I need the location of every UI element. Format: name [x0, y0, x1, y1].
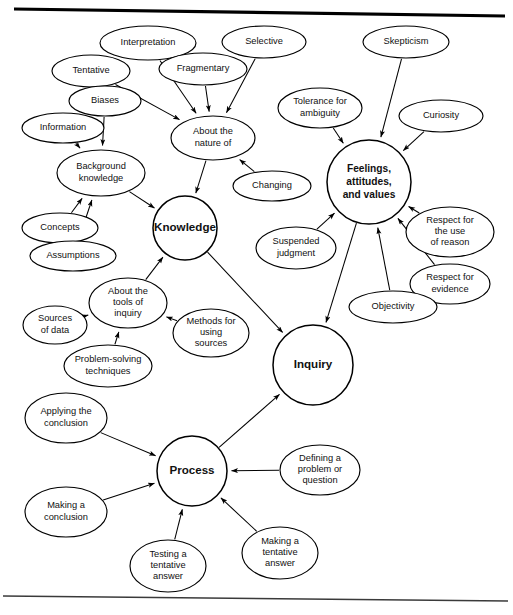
- node-background-knowledge[interactable]: Backgroundknowledge: [57, 150, 145, 196]
- node-applying-conclusion[interactable]: Applying theconclusion: [25, 393, 107, 443]
- node-tentative[interactable]: Tentative: [52, 55, 130, 87]
- edge-objectivity-to-feelings: [378, 228, 390, 290]
- edge-applying-conclusion-to-process: [101, 433, 156, 456]
- edge-fragmentary-to-about-nature-of: [205, 86, 209, 112]
- node-label-skepticism: Skepticism: [384, 36, 429, 46]
- node-label-tentative: Tentative: [72, 65, 109, 75]
- node-label-selective: Selective: [245, 36, 283, 46]
- node-inquiry[interactable]: Inquiry: [273, 325, 353, 405]
- node-process[interactable]: Process: [157, 436, 227, 506]
- edge-testing-tentative-answer-to-process: [175, 509, 183, 539]
- node-label-testing-tentative-answer: Testing atentativeanswer: [149, 549, 187, 581]
- node-label-concepts: Concepts: [40, 222, 80, 232]
- node-label-assumptions: Assumptions: [46, 250, 100, 260]
- node-suspended-judgment[interactable]: Suspendedjudgment: [256, 227, 336, 269]
- node-defining-problem[interactable]: Defining aproblem orquestion: [280, 445, 360, 495]
- node-label-making-conclusion: Making aconclusion: [44, 501, 88, 522]
- nodes-layer: InterpretationSelectiveSkepticismFragmen…: [22, 26, 494, 592]
- node-label-feelings: Feelings,attitudes,and values: [343, 163, 396, 199]
- edge-making-tentative-answer-to-process: [221, 498, 257, 531]
- edge-curiosity-to-feelings: [403, 132, 424, 151]
- node-skepticism[interactable]: Skepticism: [363, 26, 449, 58]
- edge-information-to-background-knowledge: [76, 143, 80, 148]
- node-assumptions[interactable]: Assumptions: [30, 241, 116, 271]
- node-concepts[interactable]: Concepts: [22, 213, 98, 243]
- node-label-making-tentative-answer: Making atentativeanswer: [261, 536, 300, 568]
- node-about-nature-of[interactable]: About thenature of: [171, 116, 255, 160]
- node-label-objectivity: Objectivity: [372, 301, 415, 311]
- edge-tolerance-ambiguity-to-feelings: [333, 128, 343, 143]
- node-tolerance-ambiguity[interactable]: Tolerance forambiguity: [278, 88, 362, 128]
- edge-skepticism-to-feelings: [381, 59, 402, 137]
- edge-suspended-judgment-to-feelings: [317, 213, 335, 229]
- node-label-curiosity: Curiosity: [423, 110, 460, 120]
- edge-sources-of-data-to-about-tools-inquiry: [85, 315, 89, 316]
- node-label-biases: Biases: [91, 95, 119, 105]
- concept-map-canvas: InterpretationSelectiveSkepticismFragmen…: [0, 0, 513, 615]
- node-testing-tentative-answer[interactable]: Testing atentativeanswer: [130, 540, 206, 592]
- edge-about-tools-inquiry-to-knowledge: [146, 257, 163, 280]
- node-curiosity[interactable]: Curiosity: [399, 100, 483, 132]
- node-methods-using-sources[interactable]: Methods forusingsources: [173, 309, 249, 357]
- node-label-knowledge: Knowledge: [154, 220, 216, 233]
- edge-problem-solving-to-about-tools-inquiry: [115, 332, 119, 344]
- node-problem-solving[interactable]: Problem-solvingtechniques: [64, 345, 152, 387]
- node-label-inquiry: Inquiry: [294, 357, 333, 370]
- node-label-suspended-judgment: Suspendedjudgment: [272, 237, 319, 258]
- node-selective[interactable]: Selective: [222, 26, 306, 58]
- node-changing[interactable]: Changing: [233, 171, 311, 201]
- node-information[interactable]: Information: [22, 113, 104, 143]
- concept-map-svg: InterpretationSelectiveSkepticismFragmen…: [0, 0, 513, 615]
- node-respect-reason[interactable]: Respect forthe useof reason: [406, 207, 494, 257]
- edge-background-knowledge-to-knowledge: [129, 192, 154, 208]
- node-biases[interactable]: Biases: [69, 86, 141, 116]
- node-label-fragmentary: Fragmentary: [177, 63, 230, 73]
- node-label-defining-problem: Defining aproblem orquestion: [298, 453, 342, 485]
- node-making-conclusion[interactable]: Making aconclusion: [25, 487, 107, 537]
- edge-making-conclusion-to-process: [103, 483, 154, 500]
- node-label-tolerance-ambiguity: Tolerance forambiguity: [293, 97, 347, 118]
- node-label-applying-conclusion: Applying theconclusion: [40, 407, 91, 428]
- node-making-tentative-answer[interactable]: Making atentativeanswer: [242, 527, 318, 579]
- node-about-tools-inquiry[interactable]: About thetools ofinquiry: [89, 278, 167, 328]
- node-label-process: Process: [169, 463, 214, 476]
- node-knowledge[interactable]: Knowledge: [153, 196, 217, 260]
- node-label-changing: Changing: [252, 180, 292, 190]
- bottom-rule: [3, 596, 508, 601]
- edge-process-to-inquiry: [219, 394, 279, 447]
- node-label-background-knowledge: Backgroundknowledge: [76, 162, 126, 183]
- node-feelings[interactable]: Feelings,attitudes,and values: [327, 140, 411, 224]
- top-rule: [14, 9, 505, 16]
- edge-changing-to-about-nature-of: [240, 160, 255, 172]
- node-label-respect-evidence: Respect forevidence: [426, 273, 474, 294]
- node-label-information: Information: [40, 122, 87, 132]
- node-sources-of-data[interactable]: Sourcesof data: [23, 306, 87, 344]
- node-label-sources-of-data: Sourcesof data: [38, 314, 72, 335]
- edge-respect-reason-to-feelings: [409, 206, 420, 213]
- node-objectivity[interactable]: Objectivity: [349, 291, 437, 323]
- node-fragmentary[interactable]: Fragmentary: [159, 53, 247, 85]
- node-label-interpretation: Interpretation: [121, 37, 176, 47]
- edge-methods-using-sources-to-about-tools-inquiry: [166, 317, 177, 321]
- edge-concepts-to-background-knowledge: [71, 198, 82, 212]
- edge-about-nature-of-to-knowledge: [196, 161, 206, 193]
- node-label-about-nature-of: About thenature of: [193, 127, 233, 148]
